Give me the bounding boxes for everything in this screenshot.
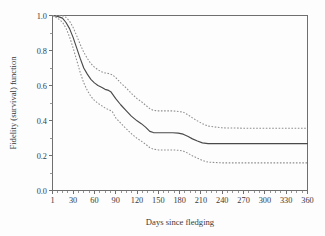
axis-frame: [53, 16, 308, 191]
x-tick-label: 1: [50, 196, 54, 205]
x-axis-ticks: [53, 191, 308, 194]
x-tick-label: 360: [301, 196, 313, 205]
x-tick-label: 270: [237, 196, 249, 205]
x-tick-label: 150: [152, 196, 164, 205]
x-axis-title: Days since fledging: [146, 217, 215, 227]
y-tick-label: 1.0: [37, 12, 47, 21]
x-tick-label: 330: [280, 196, 292, 205]
chart-canvas: 0.00.20.40.60.81.0 130609012015018021024…: [0, 0, 325, 236]
y-axis-tick-labels: 0.00.20.40.60.81.0: [37, 12, 48, 196]
survival-chart-figure: 0.00.20.40.60.81.0 130609012015018021024…: [0, 0, 325, 236]
x-tick-label: 210: [195, 196, 207, 205]
x-tick-label: 120: [131, 196, 143, 205]
confidence-band-curve-1: [53, 16, 308, 129]
survival-curve: [53, 16, 308, 144]
chart-axes: [53, 16, 308, 191]
y-tick-label: 0.6: [37, 82, 47, 91]
y-tick-label: 0.8: [37, 47, 47, 56]
confidence-band-curve-2: [53, 16, 308, 163]
x-tick-label: 90: [112, 196, 120, 205]
x-axis-tick-labels: 1306090120150180210240270300330360: [50, 196, 313, 205]
y-axis-title: Fidelity (survival) function: [8, 56, 18, 150]
x-tick-label: 30: [69, 196, 77, 205]
x-tick-label: 300: [259, 196, 271, 205]
y-tick-label: 0.2: [37, 152, 47, 161]
x-tick-label: 180: [173, 196, 185, 205]
y-axis-ticks: [49, 16, 52, 191]
y-tick-label: 0.4: [37, 117, 48, 126]
x-tick-label: 240: [216, 196, 228, 205]
x-tick-label: 60: [90, 196, 98, 205]
chart-series-group: [53, 16, 308, 163]
y-tick-label: 0.0: [37, 187, 47, 196]
